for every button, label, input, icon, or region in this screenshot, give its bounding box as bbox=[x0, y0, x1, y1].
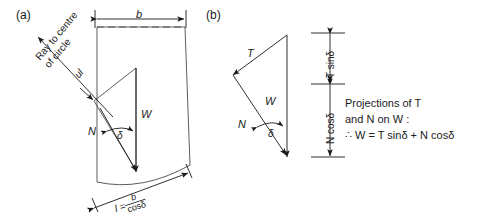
panel-a-label-w: W bbox=[141, 108, 151, 120]
note-line-3: ∴ W = T sinδ + N cosδ bbox=[345, 128, 454, 144]
panel-b-label-w: W bbox=[265, 95, 275, 107]
panel-b-label-delta: δ bbox=[268, 128, 274, 139]
slice-outline bbox=[97, 27, 190, 185]
panel-a-label: (a) bbox=[16, 8, 31, 22]
slice-inner-face bbox=[94, 68, 136, 170]
panel-a-dim-b: b bbox=[136, 8, 142, 20]
panel-a-label-delta: δ bbox=[117, 130, 123, 141]
panel-a-label-n: N bbox=[88, 125, 96, 137]
panel-b-dim-tsin: T sinδ bbox=[325, 51, 336, 78]
panel-b-label-n: N bbox=[238, 118, 246, 130]
note-line-1: Projections of T bbox=[345, 96, 454, 112]
panel-b-dim-ncos: N cosδ bbox=[325, 113, 336, 144]
panel-b-angle-arc bbox=[257, 123, 283, 127]
projection-note: Projections of T and N on W : ∴ W = T si… bbox=[345, 96, 454, 144]
panel-b-force-triangle bbox=[233, 35, 287, 157]
note-line-2: and N on W : bbox=[345, 112, 454, 128]
panel-b-label-t: T bbox=[247, 47, 254, 59]
panel-b-label: (b) bbox=[206, 8, 221, 22]
